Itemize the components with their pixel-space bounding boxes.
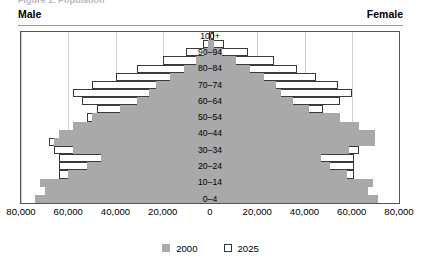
pyramid-row bbox=[21, 154, 399, 162]
bar-male-2000 bbox=[87, 162, 210, 170]
x-axis-tick: 0 bbox=[207, 206, 212, 217]
pyramid-row bbox=[21, 122, 399, 130]
bar-female-2000 bbox=[210, 187, 368, 195]
bar-female-2000 bbox=[210, 113, 340, 121]
pyramid-row bbox=[21, 170, 399, 178]
bar-female-2000 bbox=[210, 97, 293, 105]
x-axis-tick: 60,000 bbox=[54, 206, 83, 217]
bar-male-2000 bbox=[73, 146, 210, 154]
bar-male-2000 bbox=[170, 73, 210, 81]
bar-male-2000 bbox=[35, 195, 210, 203]
bar-male-2000 bbox=[156, 81, 210, 89]
pyramid-row bbox=[21, 40, 399, 48]
pyramid-row bbox=[21, 130, 399, 138]
pyramid-row bbox=[21, 187, 399, 195]
bar-male-2000 bbox=[68, 170, 210, 178]
header-divider bbox=[18, 25, 403, 26]
x-axis-tick: 20,000 bbox=[243, 206, 272, 217]
bar-male-2000 bbox=[137, 97, 210, 105]
clipped-title-strip: Figure 1. Population bbox=[0, 0, 421, 7]
pyramid-row bbox=[21, 113, 399, 121]
pyramid-row bbox=[21, 89, 399, 97]
bar-female-2000 bbox=[210, 170, 347, 178]
x-axis-tick: 80,000 bbox=[384, 206, 413, 217]
bar-female-2000 bbox=[210, 48, 222, 56]
pyramid-row bbox=[21, 138, 399, 146]
pyramid-row bbox=[21, 73, 399, 81]
legend-item-2000: 2000 bbox=[162, 243, 197, 254]
x-axis-tick: 40,000 bbox=[290, 206, 319, 217]
legend-label-2025: 2025 bbox=[238, 243, 259, 254]
bar-female-2000 bbox=[210, 122, 359, 130]
male-side-label: Male bbox=[18, 8, 41, 20]
bar-male-2000 bbox=[120, 105, 210, 113]
bar-female-2000 bbox=[210, 105, 309, 113]
legend-label-2000: 2000 bbox=[176, 243, 197, 254]
pyramid-row bbox=[21, 48, 399, 56]
x-axis-tick: 20,000 bbox=[148, 206, 177, 217]
x-axis-tick: 40,000 bbox=[101, 206, 130, 217]
x-axis-tick: 80,000 bbox=[6, 206, 35, 217]
chart-plot-area: 0–410–1420–2430–3440–4450–5460–6470–7480… bbox=[20, 31, 400, 204]
bar-female-2000 bbox=[210, 40, 214, 48]
bar-male-2000 bbox=[45, 187, 210, 195]
female-side-label: Female bbox=[367, 8, 403, 20]
bar-male-2000 bbox=[101, 154, 210, 162]
pyramid-row bbox=[21, 97, 399, 105]
bar-female-2000 bbox=[210, 89, 281, 97]
pyramid-row bbox=[21, 65, 399, 73]
bar-male-2000 bbox=[184, 65, 210, 73]
bar-female-2000 bbox=[210, 154, 321, 162]
bar-female-2000 bbox=[210, 56, 236, 64]
chart-legend: 2000 2025 bbox=[0, 240, 421, 256]
pyramid-row bbox=[21, 56, 399, 64]
bar-female-2000 bbox=[210, 73, 264, 81]
bar-female-2000 bbox=[210, 146, 349, 154]
bar-female-2000 bbox=[210, 195, 378, 203]
pyramid-row bbox=[21, 162, 399, 170]
bar-female-2000 bbox=[210, 130, 375, 138]
x-axis-tick: 60,000 bbox=[337, 206, 366, 217]
pyramid-row bbox=[21, 179, 399, 187]
legend-item-2025: 2025 bbox=[224, 243, 259, 254]
pyramid-row bbox=[21, 81, 399, 89]
bar-female-2000 bbox=[210, 32, 211, 40]
bar-male-2000 bbox=[73, 122, 210, 130]
bar-male-2000 bbox=[54, 138, 210, 146]
bar-female-2000 bbox=[210, 81, 276, 89]
figure-title: Figure 1. Population bbox=[18, 0, 105, 5]
bar-female-2000 bbox=[210, 179, 373, 187]
pyramid-row bbox=[21, 32, 399, 40]
bar-female-2000 bbox=[210, 138, 375, 146]
legend-swatch-2000-icon bbox=[162, 244, 170, 252]
pyramid-row bbox=[21, 195, 399, 203]
legend-swatch-2025-icon bbox=[224, 244, 232, 252]
bar-male-2000 bbox=[59, 130, 210, 138]
bar-male-2000 bbox=[196, 56, 210, 64]
gridline bbox=[399, 32, 400, 203]
bar-male-2000 bbox=[92, 113, 210, 121]
bar-male-2000 bbox=[149, 89, 210, 97]
x-axis-tick-labels: 80,00060,00040,00020,000020,00040,00060,… bbox=[0, 206, 421, 222]
bar-male-2000 bbox=[40, 179, 210, 187]
bar-female-2000 bbox=[210, 162, 330, 170]
population-pyramid-figure: Figure 1. Population Male Female 0–410–1… bbox=[0, 0, 421, 270]
bar-female-2000 bbox=[210, 65, 250, 73]
pyramid-row bbox=[21, 105, 399, 113]
pyramid-header: Male Female bbox=[0, 8, 421, 23]
pyramid-row bbox=[21, 146, 399, 154]
